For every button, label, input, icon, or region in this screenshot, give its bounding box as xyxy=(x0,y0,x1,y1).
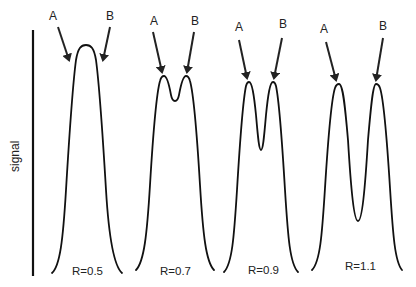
peak-a-label: A xyxy=(49,9,57,23)
arrow-peak-a xyxy=(326,42,336,80)
peak-b-label: B xyxy=(106,9,114,23)
peak-b-label: B xyxy=(379,19,387,33)
arrow-peak-a xyxy=(153,32,162,72)
resolution-label: R=0.5 xyxy=(72,265,103,277)
peak-a-label: A xyxy=(320,22,328,36)
chromatogram-curve xyxy=(52,45,122,273)
resolution-diagram: signal A B R=0.5 A B R=0.7 A B R=0.9 A B… xyxy=(0,0,416,287)
chromatogram-curve xyxy=(136,76,214,270)
resolution-label: R=0.9 xyxy=(248,264,279,276)
peak-a-label: A xyxy=(150,14,158,28)
resolution-label: R=0.7 xyxy=(160,265,191,277)
chromatogram-curve xyxy=(312,84,402,270)
panel-r09: A B R=0.9 xyxy=(224,17,298,276)
panel-r05: A B R=0.5 xyxy=(49,9,122,277)
arrow-peak-b xyxy=(187,32,194,72)
arrow-peak-a xyxy=(58,27,69,60)
signal-axis-label: signal xyxy=(8,141,22,172)
resolution-label: R=1.1 xyxy=(345,260,376,272)
panel-r11: A B R=1.1 xyxy=(312,19,402,272)
arrow-peak-b xyxy=(274,38,282,78)
arrow-peak-b xyxy=(103,27,110,60)
peak-b-label: B xyxy=(191,14,199,28)
arrow-peak-a xyxy=(239,40,247,78)
arrow-peak-b xyxy=(376,38,383,80)
peak-b-label: B xyxy=(279,17,287,31)
panel-r07: A B R=0.7 xyxy=(136,14,214,277)
chromatogram-curve xyxy=(224,82,298,272)
peak-a-label: A xyxy=(235,20,243,34)
